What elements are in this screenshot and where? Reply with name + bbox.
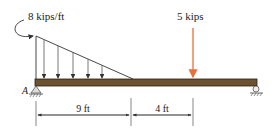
point-load-label: 5 kips (177, 10, 204, 22)
pin-support-icon (29, 86, 43, 97)
support-a-label: A (21, 85, 29, 96)
distributed-load-label: 8 kips/ft (28, 10, 64, 22)
distributed-load (15, 20, 133, 79)
beam (35, 79, 257, 86)
diagram-canvas: 8 kips/ft 5 kips A 9 ft 4 ft (0, 0, 272, 134)
dimension-9ft: 9 ft (76, 103, 90, 114)
roller-support-icon (250, 86, 263, 96)
beam-diagram: 8 kips/ft 5 kips A 9 ft 4 ft (0, 0, 272, 134)
dimension-4ft: 4 ft (155, 103, 169, 114)
dimension-lines (36, 98, 193, 126)
